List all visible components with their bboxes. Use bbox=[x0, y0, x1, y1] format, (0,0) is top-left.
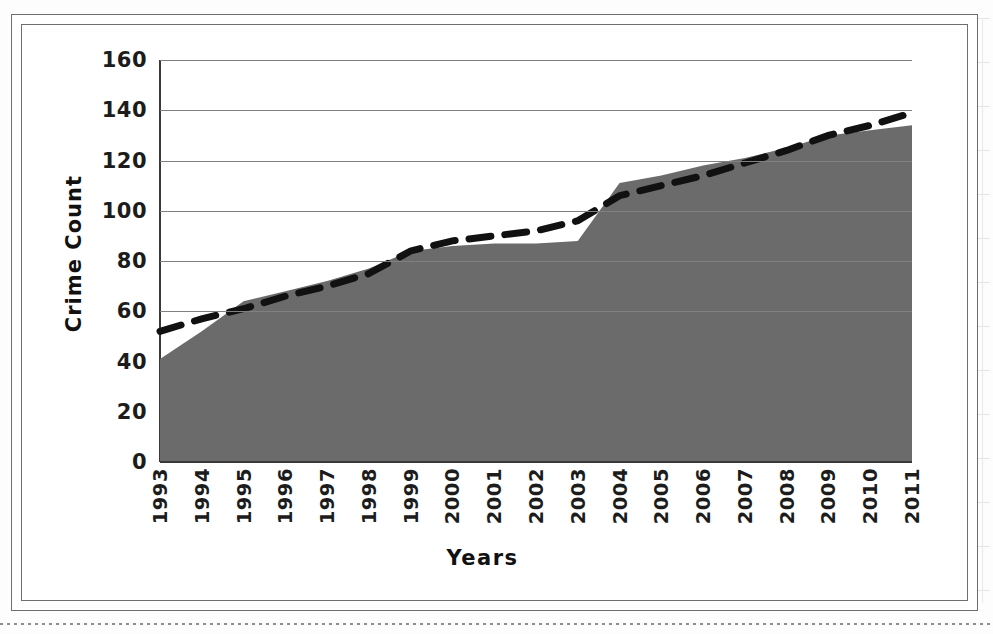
plot-area: 0204060801001201401601993199419951996199… bbox=[160, 60, 912, 462]
x-axis-tick-label: 1997 bbox=[316, 468, 339, 524]
x-axis-tick-label: 1998 bbox=[358, 468, 381, 524]
gridline bbox=[160, 311, 912, 312]
x-axis-tick-label: 2011 bbox=[901, 468, 924, 524]
y-axis-tick-label: 140 bbox=[102, 98, 147, 122]
gridline bbox=[160, 161, 912, 162]
x-axis-tick-label: 2000 bbox=[441, 468, 464, 524]
y-axis-tick-label: 80 bbox=[117, 249, 147, 273]
y-axis-title: Crime Count bbox=[62, 175, 86, 332]
x-axis-tick-label: 2010 bbox=[859, 468, 882, 524]
x-axis-tick-label: 1999 bbox=[400, 468, 423, 524]
x-axis-tick-label: 1995 bbox=[233, 468, 256, 524]
x-axis-tick-label: 2003 bbox=[567, 468, 590, 524]
y-axis-tick-label: 120 bbox=[102, 149, 147, 173]
x-axis-line bbox=[160, 461, 912, 463]
y-axis-tick-label: 160 bbox=[102, 48, 147, 72]
x-axis-tick-label: 2002 bbox=[525, 468, 548, 524]
y-axis-tick-label: 0 bbox=[132, 450, 147, 474]
x-axis-tick-label: 2006 bbox=[692, 468, 715, 524]
x-axis-tick-label: 2008 bbox=[776, 468, 799, 524]
x-axis-title: Years bbox=[0, 546, 965, 570]
y-axis-tick-label: 60 bbox=[117, 299, 147, 323]
x-axis-tick-label: 2005 bbox=[650, 468, 673, 524]
y-axis-tick-label: 20 bbox=[117, 400, 147, 424]
x-axis-tick-label: 1993 bbox=[149, 468, 172, 524]
x-axis-tick-label: 2004 bbox=[609, 468, 632, 524]
x-axis-tick-label: 1996 bbox=[274, 468, 297, 524]
x-axis-tick-label: 2007 bbox=[734, 468, 757, 524]
gridline bbox=[160, 110, 912, 111]
x-axis-tick-label: 1994 bbox=[191, 468, 214, 524]
y-axis-tick-label: 40 bbox=[117, 350, 147, 374]
area-series bbox=[160, 125, 912, 462]
scanned-dotted-edge bbox=[0, 623, 993, 625]
gridline bbox=[160, 261, 912, 262]
x-axis-tick-label: 2001 bbox=[483, 468, 506, 524]
gridline bbox=[160, 211, 912, 212]
y-axis-tick-label: 100 bbox=[102, 199, 147, 223]
chart-page: Crime Count Years 0204060801001201401601… bbox=[0, 0, 993, 634]
gridline bbox=[160, 60, 912, 61]
x-axis-tick-label: 2009 bbox=[817, 468, 840, 524]
